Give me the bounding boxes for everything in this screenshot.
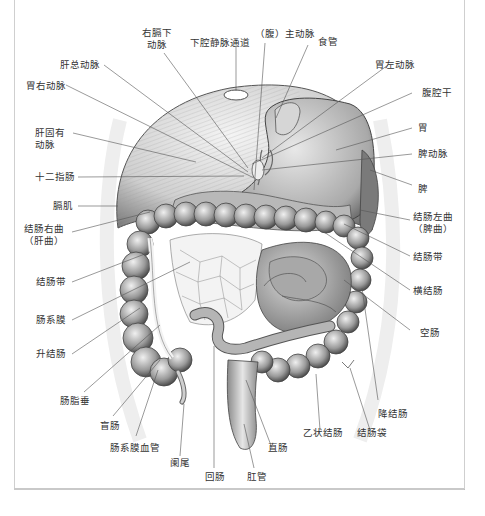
- label-right-gastric-artery: 胃右动脉: [26, 80, 66, 92]
- label-ivc-passage: 下腔静脉通道: [190, 37, 250, 49]
- label-left-gastric-artery: 胃左动脉: [375, 59, 415, 71]
- label-celiac-trunk: 腹腔干: [422, 87, 452, 99]
- label-epiploic-appendices: 肠脂垂: [60, 395, 90, 407]
- label-anal-canal: 肛管: [247, 471, 267, 483]
- label-ascending-colon: 升结肠: [36, 348, 66, 360]
- label-line: 结肠右曲: [24, 223, 64, 235]
- label-line: 动脉: [142, 39, 172, 51]
- label-jejunum: 空肠: [420, 327, 440, 339]
- label-right-inferior-phrenic-artery: 右膈下 动脉: [142, 27, 172, 51]
- label-haustra: 结肠袋: [357, 427, 387, 439]
- label-stomach: 胃: [418, 122, 428, 134]
- label-line: 肝固有: [35, 127, 65, 139]
- label-transverse-colon: 横结肠: [413, 285, 443, 297]
- label-right-colic-flexure: 结肠右曲 （肝曲）: [24, 223, 64, 247]
- label-descending-colon: 降结肠: [378, 408, 408, 420]
- label-taenia-coli-left: 结肠带: [36, 276, 66, 288]
- label-mesenteric-vessels: 肠系膜血管: [110, 442, 160, 454]
- label-taenia-coli-right: 结肠带: [413, 251, 443, 263]
- label-hepatic-common-artery: 肝总动脉: [60, 59, 100, 71]
- label-appendix: 阑尾: [170, 457, 190, 469]
- label-duodenum: 十二指肠: [35, 171, 75, 183]
- label-splenic-artery: 脾动脉: [418, 148, 448, 160]
- label-line: （肝曲）: [24, 235, 64, 247]
- label-line: （脾曲）: [413, 223, 453, 235]
- label-cecum: 盲肠: [100, 420, 120, 432]
- label-mesentery: 肠系膜: [36, 314, 66, 326]
- label-spleen: 脾: [418, 183, 428, 195]
- label-abdominal-aorta: （腹）主动脉: [255, 28, 315, 40]
- label-esophagus: 食管: [318, 36, 338, 48]
- label-proper-hepatic-artery: 肝固有 动脉: [35, 127, 65, 151]
- label-sigmoid-colon: 乙状结肠: [303, 427, 343, 439]
- label-line: 动脉: [35, 139, 65, 151]
- label-left-colic-flexure: 结肠左曲 （脾曲）: [413, 211, 453, 235]
- label-rectum: 直肠: [268, 442, 288, 454]
- label-ileum: 回肠: [205, 471, 225, 483]
- label-line: 右膈下: [142, 27, 172, 39]
- label-diaphragm: 膈肌: [53, 200, 73, 212]
- label-line: 结肠左曲: [413, 211, 453, 223]
